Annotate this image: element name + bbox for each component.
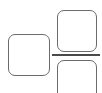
left-box bbox=[8, 34, 50, 76]
split-layout-icon bbox=[0, 0, 102, 93]
top-right-box bbox=[57, 10, 97, 52]
divider-line bbox=[52, 54, 100, 56]
bottom-right-box bbox=[57, 60, 97, 93]
